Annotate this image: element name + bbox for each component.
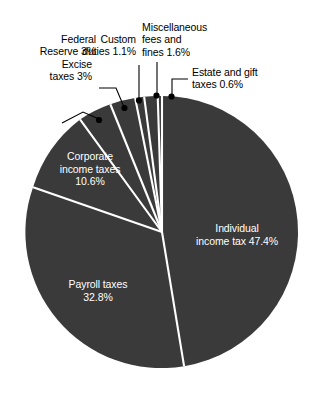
- pie-label-payroll-taxes: Payroll taxes 32.8%: [46, 278, 150, 303]
- leader-line-estate-and-gift: [172, 79, 188, 95]
- leader-dot-custom-duties: [136, 97, 142, 103]
- leader-dot-federal-reserve: [121, 105, 127, 111]
- pie-label-corporate-income-taxes: Corporate income taxes 10.6%: [42, 150, 138, 188]
- pie-label-custom-duties: Custom duties 1.1%: [62, 33, 136, 58]
- leader-dot-miscellaneous: [153, 92, 159, 98]
- pie-label-individual-income-tax: Individual income tax 47.4%: [181, 222, 293, 247]
- leader-dot-excise-taxes: [96, 117, 102, 123]
- pie-label-estate-and-gift-taxes: Estate and gift taxes 0.6%: [192, 66, 302, 91]
- pie-chart: Excise taxes 3% Federal Reserve 3% Custo…: [0, 0, 319, 399]
- pie-label-miscellaneous-fees-and-fines: Miscellaneous fees and fines 1.6%: [142, 21, 226, 58]
- leader-dot-estate-and-gift: [168, 93, 174, 99]
- pie-label-excise-taxes: Excise taxes 3%: [0, 58, 92, 83]
